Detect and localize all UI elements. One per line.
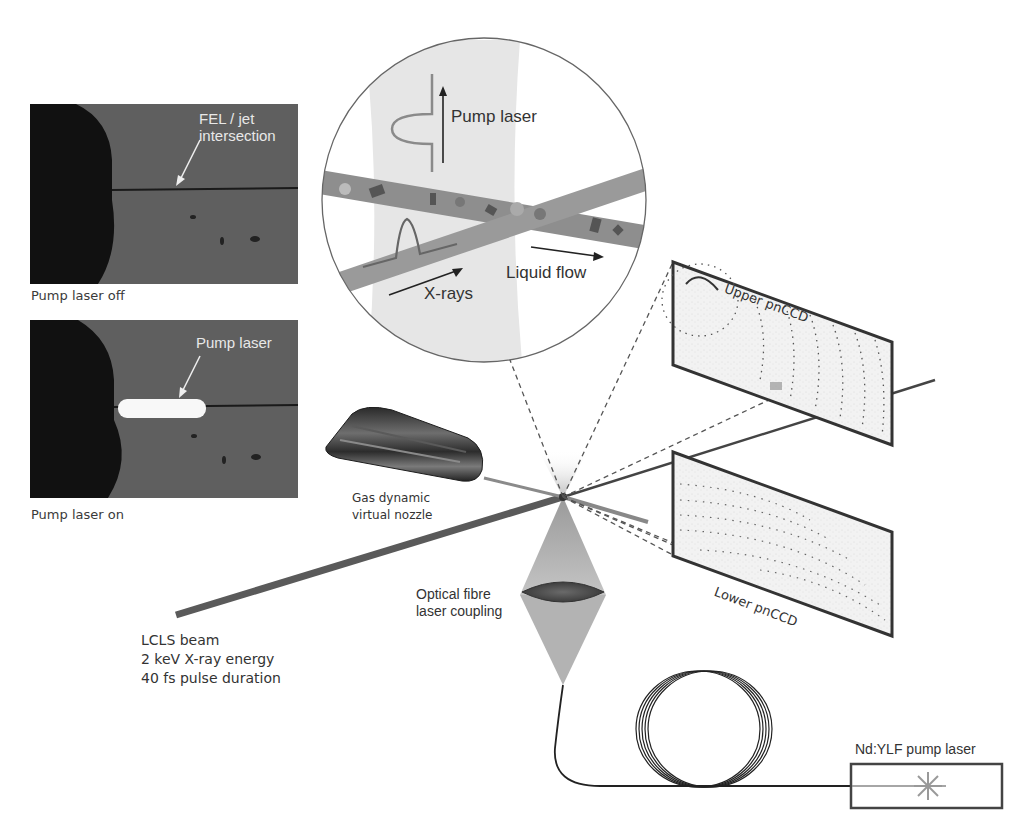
nozzle-label: Gas dynamic virtual nozzle: [352, 490, 432, 524]
photo-bottom-annotation: Pump laser: [196, 334, 272, 351]
inset-xrays-label: X-rays: [424, 285, 473, 302]
beam-label-line: 40 fs pulse duration: [141, 669, 281, 688]
fibre-label-line: Optical fibre: [416, 586, 502, 603]
optical-fibre: [555, 671, 852, 787]
photo-bottom-caption: Pump laser on: [31, 507, 124, 522]
pump-laser-label: Nd:YLF pump laser: [855, 741, 976, 758]
photo-top-annotation: FEL / jet intersection: [199, 110, 276, 144]
inset-pump-laser-label: Pump laser: [451, 108, 537, 125]
annotation-line: FEL / jet: [199, 110, 276, 127]
beam-label: LCLS beam 2 keV X-ray energy 40 fs pulse…: [141, 631, 281, 688]
beam-label-line: LCLS beam: [141, 631, 281, 650]
pump-laser-box: [851, 764, 1002, 808]
nozzle-icon: [326, 407, 483, 481]
nozzle-label-line: Gas dynamic: [352, 490, 432, 507]
fibre-label: Optical fibre laser coupling: [416, 586, 502, 620]
nozzle-label-line: virtual nozzle: [352, 507, 432, 524]
fibre-coil: [636, 671, 772, 787]
inset-liquid-flow-label: Liquid flow: [506, 264, 586, 281]
beam-label-line: 2 keV X-ray energy: [141, 650, 281, 669]
photo-top-caption: Pump laser off: [31, 288, 125, 303]
annotation-line: intersection: [199, 127, 276, 144]
laser-cones: [520, 450, 606, 685]
inset-magnifier: [320, 38, 650, 362]
upper-detector: [662, 262, 892, 445]
fibre-label-line: laser coupling: [416, 603, 502, 620]
star-burst-icon: [914, 772, 942, 800]
